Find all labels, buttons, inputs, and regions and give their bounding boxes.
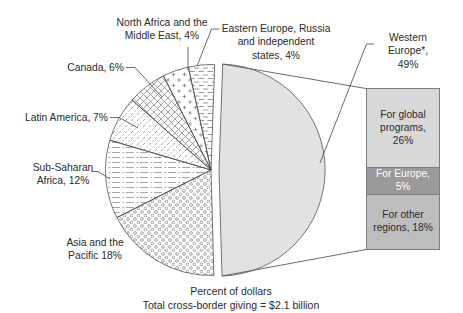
- slice-label-latin-america: Latin America, 7%: [25, 111, 108, 124]
- slice-label-eastern-europe: Eastern Europe, Russia and independent s…: [222, 22, 331, 62]
- slice-label-north-africa: North Africa and the Middle East, 4%: [116, 16, 207, 43]
- chart-total-caption: Total cross-border giving = $2.1 billion: [143, 298, 320, 312]
- bar-segment-other-regions: For other regions, 18%: [367, 194, 439, 249]
- chart-unit-caption: Percent of dollars: [143, 284, 320, 298]
- slice-label-asia-pacific: Asia and the Pacific 18%: [66, 236, 123, 263]
- pie-slice-western-europe: [219, 64, 325, 276]
- chart-caption: Percent of dollars Total cross-border gi…: [143, 284, 320, 312]
- slice-label-western-europe: Western Europe*, 49%: [381, 31, 436, 71]
- slice-label-sub-saharan: Sub-Saharan Africa, 12%: [33, 161, 94, 188]
- slice-label-canada: Canada, 6%: [67, 61, 124, 74]
- breakout-bar: For global programs, 26% For Europe, 5% …: [366, 88, 440, 250]
- bar-segment-global-programs: For global programs, 26%: [367, 89, 439, 167]
- pie-slices-group: [105, 64, 325, 276]
- bar-segment-for-europe: For Europe, 5%: [367, 167, 439, 194]
- cross-border-giving-chart: North Africa and the Middle East, 4% Eas…: [0, 0, 463, 313]
